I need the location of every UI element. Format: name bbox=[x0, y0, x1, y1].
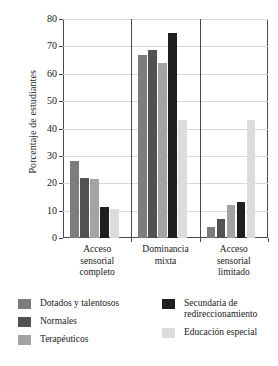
plot-inner: 01020304050607080 bbox=[63, 19, 268, 238]
y-axis-tick-label: 20 bbox=[47, 178, 57, 188]
legend-label-line: Terapéuticos bbox=[40, 334, 88, 345]
category-label-line: Acceso bbox=[200, 244, 268, 256]
y-axis-tick bbox=[59, 211, 63, 212]
legend-swatch bbox=[162, 328, 175, 338]
legend-label-line: Secundaria de bbox=[184, 298, 257, 309]
bar bbox=[247, 120, 256, 238]
legend-swatch bbox=[18, 317, 31, 327]
y-axis-tick bbox=[59, 238, 63, 239]
category-label-line: sensorial bbox=[63, 256, 131, 268]
y-axis-tick-label: 30 bbox=[47, 151, 57, 161]
y-axis-tick bbox=[59, 183, 63, 184]
category-label-line: Dominancia bbox=[131, 244, 199, 256]
group-separator bbox=[131, 19, 132, 238]
y-axis-tick-label: 70 bbox=[47, 41, 57, 51]
y-axis-title-text: Porcentaje de estudiantes bbox=[27, 70, 38, 174]
legend-label: Normales bbox=[40, 316, 77, 327]
legend-item[interactable]: Normales bbox=[18, 316, 148, 327]
bar bbox=[178, 120, 187, 238]
legend-column-left: Dotados y talentososNormalesTerapéuticos bbox=[18, 298, 148, 352]
y-axis-tick bbox=[59, 46, 63, 47]
gridline bbox=[63, 46, 268, 47]
legend-item[interactable]: Dotados y talentosos bbox=[18, 298, 148, 309]
legend-swatch bbox=[162, 299, 175, 309]
y-axis-tick-label: 40 bbox=[47, 124, 57, 134]
chart-legend: Dotados y talentososNormalesTerapéuticos… bbox=[14, 298, 274, 360]
legend-label: Secundaria deredireccionamiento bbox=[184, 298, 257, 320]
y-axis-tick bbox=[59, 156, 63, 157]
bar bbox=[80, 178, 89, 238]
legend-label: Educación especial bbox=[184, 327, 257, 338]
y-axis-tick-label: 10 bbox=[47, 206, 57, 216]
bar bbox=[138, 55, 147, 238]
category-label-line: mixta bbox=[131, 256, 199, 268]
bar bbox=[158, 63, 167, 238]
category-label-line: completo bbox=[63, 267, 131, 279]
bar bbox=[217, 219, 226, 238]
bar bbox=[227, 205, 236, 238]
legend-label-line: Educación especial bbox=[184, 327, 257, 338]
y-axis-tick bbox=[59, 74, 63, 75]
y-axis-title: Porcentaje de estudiantes bbox=[24, 0, 40, 243]
group-separator bbox=[200, 19, 201, 238]
legend-label: Dotados y talentosos bbox=[40, 298, 119, 309]
legend-column-right: Secundaria deredireccionamientoEducación… bbox=[162, 298, 278, 345]
legend-label-line: Normales bbox=[40, 316, 77, 327]
bar bbox=[90, 179, 99, 238]
x-axis-category-labels: AccesosensorialcompletoDominanciamixtaAc… bbox=[63, 244, 268, 290]
legend-item[interactable]: Secundaria deredireccionamiento bbox=[162, 298, 278, 320]
category-label-line: limitado bbox=[200, 267, 268, 279]
y-axis-tick bbox=[59, 129, 63, 130]
bar bbox=[168, 33, 177, 238]
legend-swatch bbox=[18, 299, 31, 309]
gridline bbox=[63, 19, 268, 20]
legend-label-line: Dotados y talentosos bbox=[40, 298, 119, 309]
bar bbox=[110, 209, 119, 238]
x-axis-tick bbox=[268, 238, 269, 242]
y-axis-tick bbox=[59, 19, 63, 20]
category-label-line: sensorial bbox=[200, 256, 268, 268]
legend-item[interactable]: Educación especial bbox=[162, 327, 278, 338]
bar-chart-figure: Porcentaje de estudiantes 01020304050607… bbox=[0, 0, 278, 366]
x-axis-tick bbox=[200, 238, 201, 242]
y-axis-tick-label: 80 bbox=[47, 14, 57, 24]
legend-label: Terapéuticos bbox=[40, 334, 88, 345]
x-axis-category-label: Accesosensorialcompleto bbox=[63, 244, 131, 279]
legend-item[interactable]: Terapéuticos bbox=[18, 334, 148, 345]
category-label-line: Acceso bbox=[63, 244, 131, 256]
y-axis-tick-label: 60 bbox=[47, 69, 57, 79]
y-axis-tick bbox=[59, 101, 63, 102]
legend-swatch bbox=[18, 335, 31, 345]
legend-label-line: redireccionamiento bbox=[184, 309, 257, 320]
bar bbox=[70, 161, 79, 238]
y-axis-tick-label: 50 bbox=[47, 96, 57, 106]
x-axis-tick bbox=[131, 238, 132, 242]
plot-area: 01020304050607080 bbox=[63, 19, 268, 238]
bar bbox=[100, 207, 109, 238]
x-axis-category-label: Accesosensoriallimitado bbox=[200, 244, 268, 279]
bar bbox=[207, 227, 216, 238]
y-axis-tick-label: 0 bbox=[52, 233, 57, 243]
bar bbox=[237, 202, 246, 238]
x-axis-category-label: Dominanciamixta bbox=[131, 244, 199, 267]
bar bbox=[148, 50, 157, 238]
